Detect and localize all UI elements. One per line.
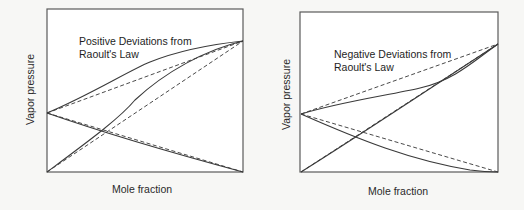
negative-plot-title: Negative Deviations from Raoult's Law [334,48,451,74]
negative-x-axis-label: Mole fraction [368,185,428,198]
diagram-canvas [0,0,524,210]
positive-plot-title: Positive Deviations from Raoult's Law [79,35,192,61]
positive-y-axis-label: Vapor pressure [24,54,36,125]
positive-x-axis-label: Mole fraction [112,183,172,196]
negative-deviation-plot [300,12,498,172]
positive-deviation-plot [47,9,243,172]
negative-y-axis-label: Vapor pressure [280,59,292,130]
